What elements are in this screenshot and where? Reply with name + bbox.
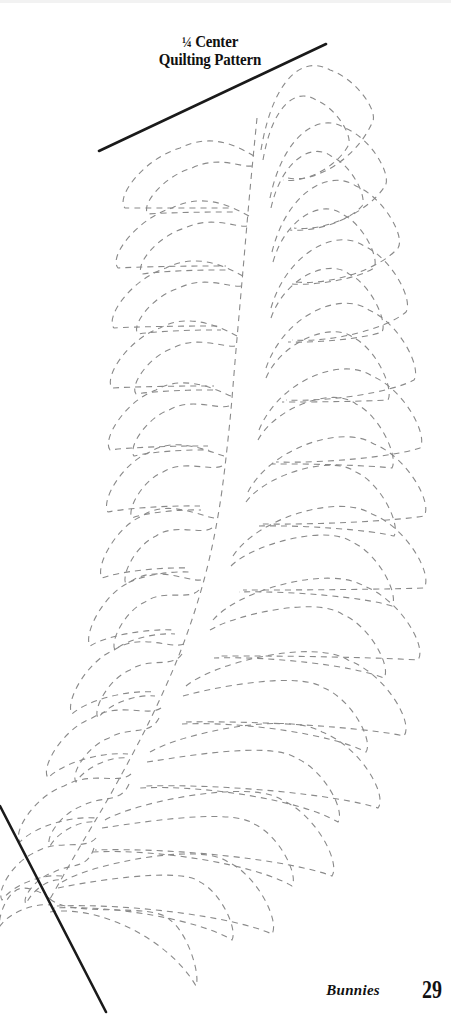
feather-lobe-left-1 — [123, 141, 254, 208]
feather-lobe-inner-left-6 — [131, 466, 222, 518]
feather-lobe-left-7 — [101, 508, 214, 578]
pattern-title-line-2: Quilting Pattern — [131, 51, 289, 69]
feather-lobe-inner-left-7 — [125, 528, 212, 584]
feather-lobe-inner-left-8 — [114, 590, 199, 650]
feather-lobe-right-3 — [272, 180, 400, 282]
feather-lobe-left-5 — [108, 383, 231, 450]
footer-page-number: 29 — [422, 976, 442, 1004]
feather-lobe-right-6 — [259, 369, 422, 462]
feather-lobe-inner-left-11 — [49, 784, 129, 846]
feather-spine — [50, 118, 257, 899]
feather-lobe-right-2 — [270, 123, 386, 229]
feather-lobe-inner-right-12 — [92, 816, 293, 886]
dashed-stitch-lines — [0, 66, 426, 986]
feather-lobe-right-12 — [95, 791, 334, 876]
feather-lobe-inner-right-9 — [210, 607, 386, 678]
feather-lobe-left-8 — [89, 574, 201, 646]
feather-lobe-inner-right-10 — [182, 680, 368, 752]
feather-lobe-inner-right-5 — [266, 332, 389, 402]
solid-guide-lines — [0, 44, 326, 1012]
feather-quilting-diagram — [0, 0, 451, 1021]
feather-lobe-right-4 — [271, 240, 408, 341]
feather-lobe-inner-left-3 — [137, 282, 241, 334]
feather-lobe-inner-left-5 — [133, 404, 229, 456]
pattern-title-line-1: ¼Center — [131, 33, 289, 51]
feather-lobe-left-10 — [46, 708, 161, 778]
feather-lobe-inner-left-10 — [75, 718, 159, 782]
feather-lobe-left-9 — [70, 642, 184, 714]
pattern-title: ¼Center Quilting Pattern — [131, 33, 289, 68]
feather-lobe-right-11 — [144, 723, 380, 808]
footer-chapter-label: Bunnies — [326, 982, 380, 999]
feather-lobe-right-13 — [56, 854, 274, 934]
feather-lobe-inner-right-8 — [231, 535, 393, 606]
feather-lobe-right-1 — [261, 66, 374, 179]
feather-lobe-left-2 — [116, 201, 249, 268]
fraction-one-quarter: ¼ — [182, 34, 195, 50]
feather-lobe-inner-right-1 — [263, 96, 349, 180]
page-footer: Bunnies 29 — [0, 974, 451, 1004]
feather-lobe-inner-left-9 — [97, 654, 182, 718]
feather-lobe-right-7 — [248, 437, 426, 524]
feather-lobe-inner-left-1 — [146, 162, 252, 214]
pattern-title-center-word: Center — [195, 32, 238, 51]
feather-lobe-left-6 — [106, 445, 224, 512]
feather-lobe-left-11 — [18, 774, 131, 842]
quilting-pattern-page: ¼Center Quilting Pattern Bunnies 29 — [0, 0, 451, 1021]
feather-lobe-right-10 — [186, 652, 406, 736]
feather-lobe-inner-right-13 — [54, 875, 233, 940]
feather-lobe-inner-right-3 — [273, 209, 375, 284]
feather-lobe-right-14 — [50, 899, 197, 986]
feather-lobe-right-5 — [266, 303, 416, 400]
